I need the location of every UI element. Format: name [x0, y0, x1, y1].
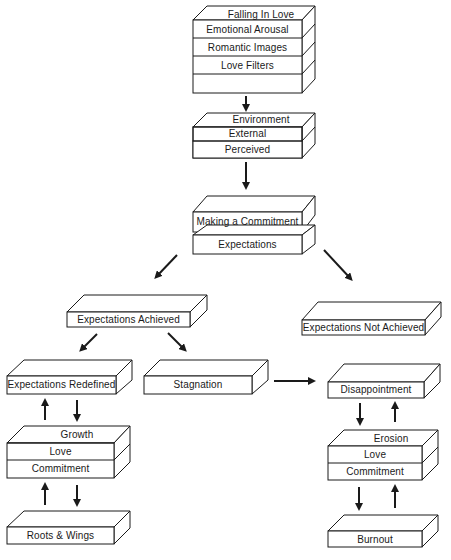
label-external: External — [193, 129, 302, 139]
label-expectations-achieved: Expectations Achieved — [67, 315, 190, 325]
label-burnout: Burnout — [328, 535, 422, 545]
label-roots-wings: Roots & Wings — [7, 531, 114, 541]
label-growth-love: Love — [7, 447, 114, 457]
label-love-filters: Love Filters — [193, 61, 302, 71]
label-disappointment: Disappointment — [328, 385, 424, 395]
arrow-to-stagnation — [168, 333, 184, 349]
label-making-a-commitment: Making a Commitment — [193, 217, 302, 227]
label-erosion-commitment: Commitment — [328, 467, 422, 477]
label-environment: Environment — [207, 115, 315, 125]
label-erosion-love: Love — [328, 450, 422, 460]
label-growth-commitment: Commitment — [7, 464, 114, 474]
label-emotional-arousal: Emotional Arousal — [193, 25, 302, 35]
label-expectations: Expectations — [193, 240, 302, 250]
label-stagnation: Stagnation — [144, 380, 252, 390]
arrow-to-achieved — [157, 255, 177, 276]
label-falling-in-love: Falling In Love — [207, 10, 315, 20]
arrow-to-not-achieved — [324, 250, 350, 278]
arrow-to-redefined — [82, 334, 97, 349]
label-expectations-not-achieved: Expectations Not Achieved — [302, 323, 425, 333]
label-perceived: Perceived — [193, 145, 302, 155]
label-erosion: Erosion — [344, 434, 438, 444]
label-romantic-images: Romantic Images — [193, 43, 302, 53]
label-growth: Growth — [24, 430, 130, 440]
label-expectations-redefined: Expectations Redefined — [7, 380, 116, 390]
